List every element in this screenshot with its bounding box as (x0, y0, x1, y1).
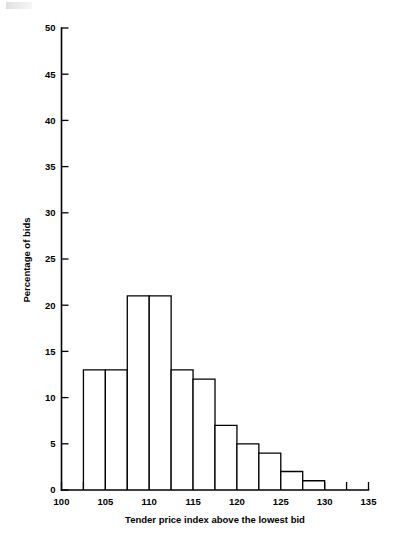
histogram-bar (149, 296, 171, 490)
y-tick-label: 20 (45, 300, 56, 311)
histogram-bar (105, 370, 127, 490)
histogram-bar (83, 370, 105, 490)
x-axis-tick-labels: 100105110115120125130135 (54, 496, 378, 507)
histogram-bar (303, 481, 325, 490)
x-tick-label: 110 (142, 496, 157, 507)
y-tick-label: 15 (45, 346, 56, 357)
x-axis-title: Tender price index above the lowest bid (125, 514, 305, 525)
histogram-bar (193, 379, 215, 490)
x-tick-label: 125 (273, 496, 290, 507)
y-axis-tick-marks (62, 28, 69, 490)
histogram-bars (83, 296, 324, 490)
x-tick-label: 135 (361, 496, 378, 507)
y-tick-label: 45 (45, 69, 56, 80)
histogram-bar (171, 370, 193, 490)
tender-price-index-histogram: 05101520253035404550 1001051101151201251… (0, 0, 407, 546)
y-tick-label: 50 (45, 22, 56, 33)
y-tick-label: 10 (45, 392, 56, 403)
x-tick-label: 100 (54, 496, 70, 507)
scan-artifact (6, 2, 32, 9)
histogram-bar (281, 472, 303, 490)
y-tick-label: 5 (50, 438, 56, 449)
histogram-figure: 05101520253035404550 1001051101151201251… (0, 0, 407, 546)
x-tick-label: 130 (317, 496, 333, 507)
y-tick-label: 35 (45, 161, 56, 172)
y-tick-label: 30 (45, 207, 56, 218)
y-tick-label: 25 (45, 253, 56, 264)
histogram-bar (127, 296, 149, 490)
y-axis-title: Percentage of bids (21, 218, 32, 303)
y-tick-label: 40 (45, 115, 56, 126)
histogram-bar (259, 453, 281, 490)
x-tick-label: 120 (229, 496, 245, 507)
histogram-bar (215, 425, 237, 490)
x-tick-label: 105 (97, 496, 114, 507)
y-axis-tick-labels: 05101520253035404550 (45, 22, 56, 495)
y-tick-label: 0 (50, 484, 55, 495)
histogram-bar (237, 444, 259, 490)
x-tick-label: 115 (185, 496, 201, 507)
